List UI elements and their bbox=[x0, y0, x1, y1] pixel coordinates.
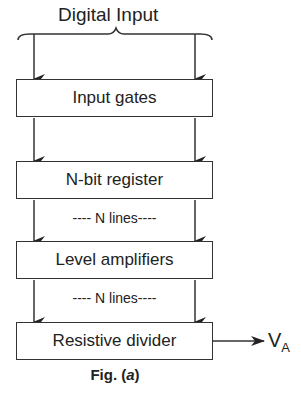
block-label: Resistive divider bbox=[53, 331, 177, 351]
input-brace bbox=[18, 28, 212, 40]
figure-caption: Fig. (a) bbox=[0, 366, 230, 383]
output-va-label: VA bbox=[268, 329, 290, 355]
block-label: N-bit register bbox=[66, 170, 163, 190]
caption-prefix: Fig. ( bbox=[90, 366, 126, 383]
block-level-amplifiers: Level amplifiers bbox=[16, 241, 213, 279]
digital-input-label: Digital Input bbox=[58, 4, 158, 26]
block-resistive-divider: Resistive divider bbox=[16, 322, 213, 360]
n-lines-label-1: ---- N lines---- bbox=[16, 210, 213, 226]
block-label: Input gates bbox=[72, 88, 156, 108]
block-input-gates: Input gates bbox=[16, 79, 213, 117]
output-subscript: A bbox=[281, 340, 290, 355]
caption-letter: a bbox=[126, 366, 134, 383]
block-n-bit-register: N-bit register bbox=[16, 161, 213, 199]
block-label: Level amplifiers bbox=[55, 250, 173, 270]
n-lines-label-2: ---- N lines---- bbox=[16, 290, 213, 306]
output-label: V bbox=[268, 329, 281, 351]
caption-suffix: ) bbox=[135, 366, 140, 383]
